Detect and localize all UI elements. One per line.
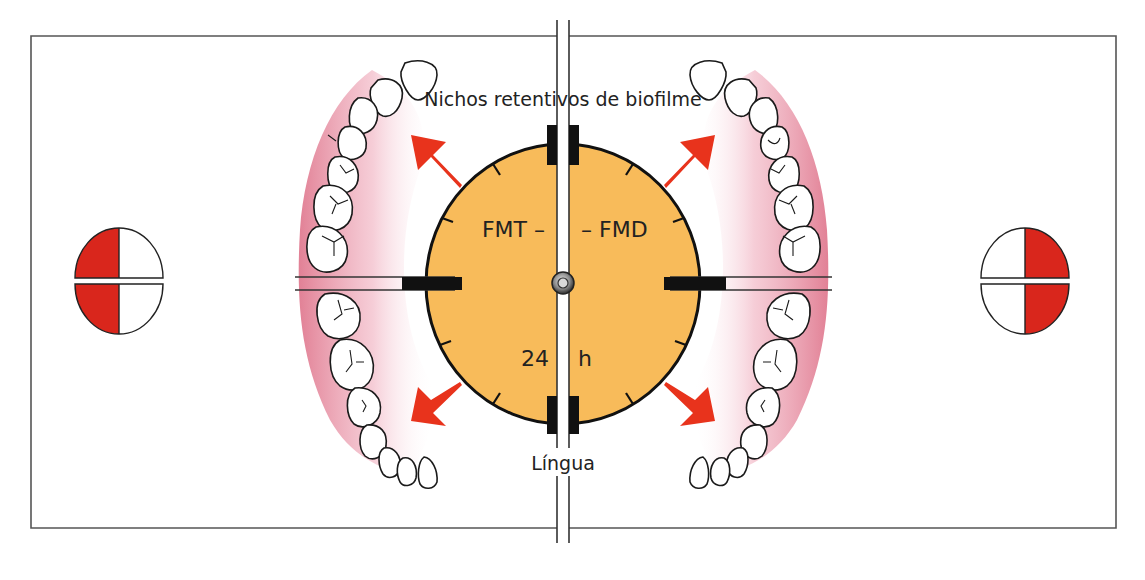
fmd-diagram: Nichos retentivos de biofilme FMT – – FM… [0,0,1145,580]
center-pivot-icon [552,272,574,294]
label-clock-right: – FMD [581,217,648,242]
label-time-value: 24 [521,346,549,371]
left-quadrant-indicator [75,228,163,334]
arrow-lower-right [664,382,715,426]
label-time-unit: h [578,346,592,371]
arrow-upper-right [664,135,715,188]
label-bottom: Língua [531,452,595,474]
arrow-lower-left [411,382,462,426]
right-quadrant-indicator [981,228,1069,334]
label-clock-left: FMT – [482,217,545,242]
label-top: Nichos retentivos de biofilme [424,88,702,110]
arrow-upper-left [411,135,462,188]
